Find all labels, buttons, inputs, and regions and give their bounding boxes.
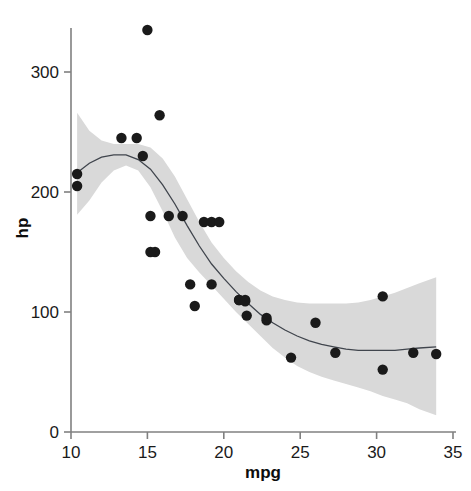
data-point — [145, 247, 155, 257]
data-point — [138, 151, 148, 161]
x-axis-title: mpg — [245, 463, 281, 482]
data-point — [378, 291, 388, 301]
data-point — [142, 25, 152, 35]
data-point — [286, 352, 296, 362]
x-tick-label: 30 — [367, 443, 386, 462]
y-tick-label: 0 — [50, 423, 59, 442]
x-tick-label: 25 — [291, 443, 310, 462]
y-tick-label: 300 — [31, 63, 59, 82]
data-point — [72, 169, 82, 179]
data-point — [72, 181, 82, 191]
y-tick-label: 100 — [31, 303, 59, 322]
data-point — [190, 301, 200, 311]
y-axis-title: hp — [13, 218, 32, 239]
data-point — [164, 211, 174, 221]
data-point — [145, 211, 155, 221]
x-tick-label: 10 — [62, 443, 81, 462]
data-point — [408, 348, 418, 358]
x-tick-label: 35 — [444, 443, 463, 462]
data-point — [261, 313, 271, 323]
data-point — [116, 133, 126, 143]
data-point — [206, 279, 216, 289]
chart-canvas: 0100200300101520253035 mpg hp — [0, 0, 471, 491]
data-point — [132, 133, 142, 143]
data-point — [242, 310, 252, 320]
scatter-plot-figure: 0100200300101520253035 mpg hp — [0, 0, 471, 491]
data-point — [378, 364, 388, 374]
data-point — [214, 217, 224, 227]
x-tick-label: 15 — [138, 443, 157, 462]
data-point — [177, 211, 187, 221]
data-point — [154, 110, 164, 120]
x-tick-label: 20 — [214, 443, 233, 462]
data-point — [310, 318, 320, 328]
data-point — [240, 296, 250, 306]
data-point — [185, 279, 195, 289]
data-point — [431, 349, 441, 359]
y-tick-label: 200 — [31, 183, 59, 202]
data-point — [330, 348, 340, 358]
